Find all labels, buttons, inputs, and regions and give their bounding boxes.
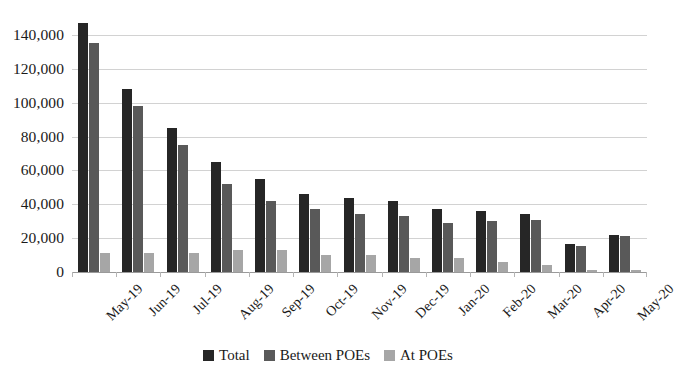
x-axis-cell: Oct-19 — [293, 278, 337, 340]
x-axis-cell: May-19 — [72, 278, 116, 340]
bar-atpoes[interactable] — [498, 262, 508, 272]
x-axis-tickmarks — [72, 272, 647, 277]
bar-total[interactable] — [344, 198, 354, 272]
x-axis-tickmark — [249, 272, 293, 277]
x-axis-cell: Nov-19 — [337, 278, 381, 340]
x-axis-tickmark — [205, 272, 249, 277]
y-axis-tick-label: 20,000 — [0, 230, 64, 246]
x-axis-tickmark — [72, 272, 116, 277]
bar-between[interactable] — [178, 145, 188, 272]
bar-group — [470, 35, 514, 272]
bar-between[interactable] — [89, 43, 99, 272]
bar-atpoes[interactable] — [454, 258, 464, 272]
bar-total[interactable] — [476, 211, 486, 272]
x-axis-cell: Sep-19 — [249, 278, 293, 340]
y-axis-tick-label: 120,000 — [0, 61, 64, 77]
legend-swatch-icon — [264, 350, 275, 361]
x-axis-tickmark — [559, 272, 603, 277]
bar-group — [559, 35, 603, 272]
bar-between[interactable] — [399, 216, 409, 272]
bar-atpoes[interactable] — [233, 250, 243, 272]
x-axis-cell: May-20 — [603, 278, 647, 340]
bar-total[interactable] — [565, 244, 575, 272]
x-axis-tick-label: May-20 — [634, 281, 677, 324]
bar-group — [116, 35, 160, 272]
y-axis-tick-label: 40,000 — [0, 197, 64, 213]
bar-group — [337, 35, 381, 272]
bar-between[interactable] — [266, 201, 276, 272]
x-axis-tickmark — [116, 272, 160, 277]
bar-total[interactable] — [609, 235, 619, 272]
bar-total[interactable] — [388, 201, 398, 272]
bar-total[interactable] — [167, 128, 177, 272]
x-axis-tickmark — [514, 272, 558, 277]
x-axis-tickmark — [160, 272, 204, 277]
bar-group — [249, 35, 293, 272]
x-axis-tickmark — [293, 272, 337, 277]
bar-atpoes[interactable] — [189, 253, 199, 272]
bar-atpoes[interactable] — [366, 255, 376, 272]
bar-groups — [72, 35, 647, 272]
plot-area — [72, 35, 647, 272]
bar-between[interactable] — [355, 214, 365, 272]
x-axis-cell: Dec-19 — [382, 278, 426, 340]
y-axis-tick-label: 80,000 — [0, 129, 64, 145]
bar-total[interactable] — [520, 214, 530, 272]
x-axis: May-19Jun-19Jul-19Aug-19Sep-19Oct-19Nov-… — [72, 278, 647, 340]
bar-between[interactable] — [531, 220, 541, 272]
bar-atpoes[interactable] — [542, 265, 552, 272]
legend-swatch-icon — [203, 350, 214, 361]
bar-atpoes[interactable] — [277, 250, 287, 272]
x-axis-cell: Feb-20 — [470, 278, 514, 340]
bar-between[interactable] — [133, 106, 143, 272]
bar-group — [514, 35, 558, 272]
x-axis-tickmark — [603, 272, 647, 277]
legend-item[interactable]: Total — [203, 348, 250, 363]
bar-group — [72, 35, 116, 272]
legend-label: At POEs — [400, 348, 453, 363]
bar-group — [293, 35, 337, 272]
bar-between[interactable] — [222, 184, 232, 272]
legend-label: Total — [219, 348, 250, 363]
x-axis-cell: Jan-20 — [426, 278, 470, 340]
bar-total[interactable] — [255, 179, 265, 272]
bar-atpoes[interactable] — [100, 253, 110, 272]
y-axis-tick-label: 100,000 — [0, 95, 64, 111]
bar-total[interactable] — [78, 23, 88, 272]
bar-atpoes[interactable] — [410, 258, 420, 272]
legend-item[interactable]: Between POEs — [264, 348, 370, 363]
bar-total[interactable] — [432, 209, 442, 272]
y-axis-tick-label: 60,000 — [0, 163, 64, 179]
bar-between[interactable] — [576, 246, 586, 272]
bar-between[interactable] — [487, 221, 497, 272]
bar-total[interactable] — [211, 162, 221, 272]
bar-between[interactable] — [310, 209, 320, 272]
bar-total[interactable] — [299, 194, 309, 272]
x-axis-cell: Jun-19 — [116, 278, 160, 340]
x-axis-cell: Jul-19 — [160, 278, 204, 340]
legend-label: Between POEs — [280, 348, 370, 363]
bar-group — [426, 35, 470, 272]
y-axis: 020,00040,00060,00080,000100,000120,0001… — [0, 24, 68, 280]
chart-legend: TotalBetween POEsAt POEs — [0, 348, 656, 363]
bar-total[interactable] — [122, 89, 132, 272]
bar-group — [160, 35, 204, 272]
bar-between[interactable] — [620, 236, 630, 272]
bar-atpoes[interactable] — [144, 253, 154, 272]
bar-group — [382, 35, 426, 272]
y-axis-tick-label: 140,000 — [0, 27, 64, 43]
bar-between[interactable] — [443, 223, 453, 272]
legend-item[interactable]: At POEs — [384, 348, 453, 363]
x-axis-tickmark — [470, 272, 514, 277]
legend-swatch-icon — [384, 350, 395, 361]
x-axis-tickmark — [337, 272, 381, 277]
bar-group — [603, 35, 647, 272]
y-axis-tick-label: 0 — [0, 264, 64, 280]
bar-group — [205, 35, 249, 272]
bar-atpoes[interactable] — [321, 255, 331, 272]
x-axis-cell: Aug-19 — [205, 278, 249, 340]
x-axis-cell: Mar-20 — [514, 278, 558, 340]
x-axis-cell: Apr-20 — [559, 278, 603, 340]
x-axis-tickmark — [382, 272, 426, 277]
